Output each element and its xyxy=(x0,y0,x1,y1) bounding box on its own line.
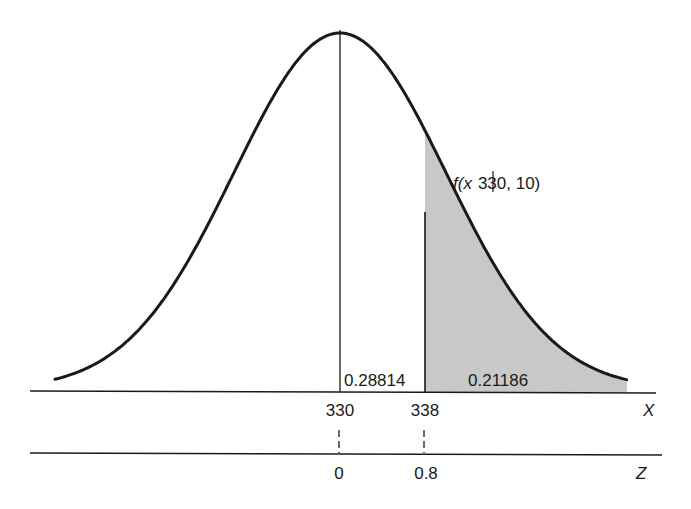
area-label-mean-to-cutoff: 0.28814 xyxy=(344,371,405,390)
upper-tail-shaded-region xyxy=(425,131,627,393)
z-axis-line xyxy=(30,453,662,455)
x-axis-label: X xyxy=(642,401,655,420)
x-tick-330: 330 xyxy=(326,401,354,420)
curve-label: f(x330, 10) xyxy=(453,174,540,193)
x-tick-338: 338 xyxy=(411,401,439,420)
z-tick-0-8: 0.8 xyxy=(414,464,438,483)
area-label-upper-tail: 0.21186 xyxy=(468,371,528,390)
z-axis-label: Z xyxy=(635,464,647,483)
z-tick-0: 0 xyxy=(334,464,343,483)
density-curve xyxy=(55,33,627,380)
normal-distribution-chart: 0.28814 0.21186 330 338 X 0 0.8 Z f(x330… xyxy=(0,0,691,509)
